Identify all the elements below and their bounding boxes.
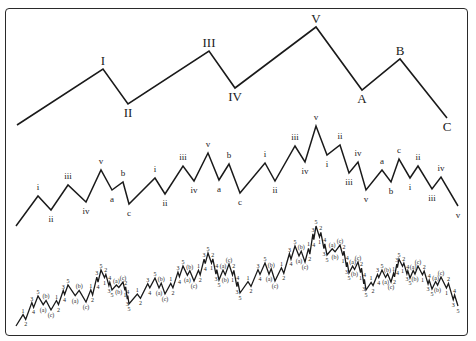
minor-wave-label: (b) xyxy=(298,244,305,251)
minor-wave-label: 2 xyxy=(372,288,375,294)
minor-wave-label: 3 xyxy=(376,267,379,273)
minor-wave-label: 1 xyxy=(197,263,200,269)
minor-wave-label: 1 xyxy=(359,275,362,281)
minor-wave-label: 1 xyxy=(169,276,172,282)
wave-label-i: i xyxy=(37,182,40,192)
wave-label-IV: IV xyxy=(228,89,242,104)
minor-wave-label: 4 xyxy=(97,284,100,290)
minor-wave-label: 1 xyxy=(421,277,424,283)
wave-label-ii: ii xyxy=(272,185,278,195)
primary-degree-wave: IIIIIIIVVABC xyxy=(17,11,451,134)
elliott-wave-diagram: IIIIIIIVVABC iiiiiiivvabciiiiiiivvabciii… xyxy=(0,0,476,341)
minor-wave-label: 3 xyxy=(288,247,291,253)
minor-wave-label: 2 xyxy=(232,263,235,269)
wave-label-b: b xyxy=(389,186,394,196)
minor-wave-label: 1 xyxy=(341,258,344,264)
minor-wave-label: 2 xyxy=(171,290,174,296)
wave-label-i: i xyxy=(326,159,329,169)
minor-wave-label: (c) xyxy=(226,257,233,264)
minor-wave-label: 1 xyxy=(55,294,58,300)
wave-label-A: A xyxy=(357,91,367,106)
wave-label-iv: iv xyxy=(82,206,90,216)
minor-wave-label: (b) xyxy=(268,262,275,269)
minor-wave-label: 1 xyxy=(307,241,310,247)
wave-label-C: C xyxy=(443,119,452,134)
wave-label-iii: iii xyxy=(345,177,353,187)
minor-wave-label: 3 xyxy=(427,286,430,292)
minor-wave-label: 3 xyxy=(30,296,33,302)
minor-wave-label: 4 xyxy=(346,255,349,261)
minor-wave-label: (c) xyxy=(388,284,395,291)
minor-wave-label: (b) xyxy=(43,293,50,300)
minor-wave-label: 4 xyxy=(215,263,218,269)
wave-label-i: i xyxy=(264,149,267,159)
minor-wave-label: (b) xyxy=(115,289,122,296)
primary-wave-line xyxy=(17,27,447,125)
minor-wave-label: 4 xyxy=(204,266,207,272)
minor-wave-label: 3 xyxy=(452,302,455,308)
minor-wave-label: 5 xyxy=(37,289,40,295)
minor-wave-label: 4 xyxy=(312,242,315,248)
minor-wave-label: 2 xyxy=(24,321,27,327)
minor-wave-label: 3 xyxy=(62,284,65,290)
wave-label-i: i xyxy=(154,164,157,174)
minor-wave-label: 5 xyxy=(182,259,185,265)
minor-degree-wave: 12345(a)(b)(c)12345(a)(b)(c)1234512345(a… xyxy=(16,219,460,327)
minor-wave-label: 3 xyxy=(322,251,325,257)
wave-label-v: v xyxy=(206,139,211,149)
minor-wave-label: 1 xyxy=(401,268,404,274)
minor-wave-label: 2 xyxy=(447,276,450,282)
minor-wave-label: 2 xyxy=(91,297,94,303)
minor-wave-label: 2 xyxy=(393,279,396,285)
wave-label-III: III xyxy=(203,35,216,50)
minor-wave-label: 5 xyxy=(111,292,114,298)
wave-label-iii: iii xyxy=(64,171,72,181)
minor-wave-label: 1 xyxy=(247,275,250,281)
minor-wave-label: 4 xyxy=(32,309,35,315)
minor-wave-label: (c) xyxy=(48,312,55,319)
wave-label-ii: ii xyxy=(162,198,168,208)
wave-label-iii: iii xyxy=(179,152,187,162)
minor-wave-label: 4 xyxy=(126,289,129,295)
minor-wave-label: 1 xyxy=(210,265,213,271)
minor-wave-label: 2 xyxy=(57,307,60,313)
minor-wave-label: 2 xyxy=(124,280,127,286)
minor-wave-label: 2 xyxy=(104,267,107,273)
wave-label-ii: ii xyxy=(48,214,54,224)
wave-label-iii: iii xyxy=(291,132,299,142)
wave-label-b: b xyxy=(121,168,126,178)
minor-wave-label: 5 xyxy=(264,256,267,262)
minor-wave-label: 1 xyxy=(392,266,395,272)
minor-wave-label: 5 xyxy=(457,308,460,314)
minor-wave-label: (b) xyxy=(434,287,441,294)
minor-wave-label: 3 xyxy=(95,270,98,276)
minor-wave-label: (b) xyxy=(186,264,193,271)
minor-wave-label: (c) xyxy=(415,259,422,266)
minor-wave-label: 2 xyxy=(319,225,322,231)
minor-wave-label: 3 xyxy=(146,277,149,283)
wave-label-i: i xyxy=(409,182,412,192)
minor-wave-label: 4 xyxy=(148,290,151,296)
minor-wave-label: 1 xyxy=(445,290,448,296)
minor-wave-label: 1 xyxy=(231,277,234,283)
minor-wave-label: 1 xyxy=(89,283,92,289)
minor-wave-label: 5 xyxy=(315,219,318,225)
minor-wave-label: 2 xyxy=(360,261,363,267)
minor-wave-label: 2 xyxy=(308,256,311,262)
minor-wave-label: 2 xyxy=(342,244,345,250)
minor-wave-label: 1 xyxy=(280,261,283,267)
minor-wave-label: 4 xyxy=(428,273,431,279)
minor-wave-label: 4 xyxy=(363,272,366,278)
minor-wave-label: 4 xyxy=(406,264,409,270)
wave-label-iv: iv xyxy=(354,148,362,158)
wave-label-b: b xyxy=(227,150,232,160)
minor-wave-label: 1 xyxy=(22,308,25,314)
minor-wave-label: 5 xyxy=(239,295,242,301)
minor-wave-label: 4 xyxy=(259,276,262,282)
minor-wave-label: 5 xyxy=(294,239,297,245)
wave-label-ii: ii xyxy=(415,152,421,162)
minor-wave-label: 4 xyxy=(396,270,399,276)
minor-wave-label: 4 xyxy=(236,275,239,281)
minor-wave-label: 5 xyxy=(348,275,351,281)
wave-label-a: a xyxy=(380,156,384,166)
